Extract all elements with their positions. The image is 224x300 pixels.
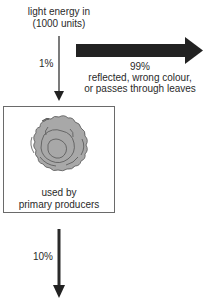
producers-label-line2: primary producers bbox=[4, 199, 114, 210]
producers-label-line1: used by bbox=[4, 187, 114, 198]
percent-10-label: 10% bbox=[33, 251, 53, 262]
lettuce-icon bbox=[4, 107, 114, 187]
primary-producers-box: used by primary producers bbox=[3, 106, 115, 213]
thick-right-arrow-icon bbox=[76, 37, 203, 64]
loss-percent-label: 99% bbox=[80, 61, 200, 72]
loss-description-line2: or passes through leaves bbox=[70, 83, 210, 94]
thin-down-arrow-icon bbox=[54, 36, 64, 101]
loss-description-line1: reflected, wrong colour, bbox=[70, 72, 210, 83]
down-arrow-icon bbox=[53, 229, 65, 298]
percent-1-label: 1% bbox=[39, 58, 53, 69]
